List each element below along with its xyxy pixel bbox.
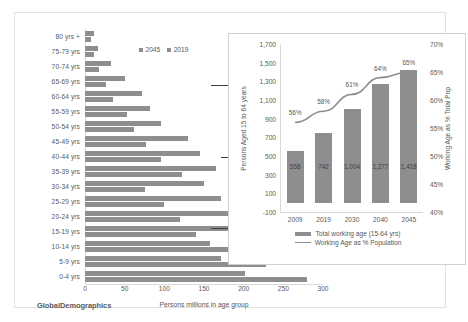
inset-bar — [372, 84, 389, 203]
inset-bar — [287, 151, 304, 203]
pyramid-row-label: 10-14 yrs — [52, 239, 80, 254]
pyramid-row-label: 40-44 yrs — [52, 149, 80, 164]
pyramid-row-label: 15-19 yrs — [52, 224, 80, 239]
pyramid-row-label: 30-34 yrs — [52, 179, 80, 194]
pyramid-bar-2045 — [85, 46, 98, 51]
pyramid-bar-2045 — [85, 76, 125, 81]
brand-watermark: GlobalDemographics — [37, 301, 111, 310]
inset-percent-label: 61% — [346, 81, 359, 88]
inset-percent-label: 64% — [374, 65, 387, 72]
pyramid-bar-2019 — [85, 52, 94, 57]
pyramid-row: 0-4 yrs — [85, 269, 323, 284]
pyramid-bar-2019 — [85, 142, 146, 147]
inset-left-y-tick: 300 — [265, 171, 276, 178]
pyramid-bar-2019 — [85, 217, 180, 222]
pyramid-row-label: 45-49 yrs — [52, 134, 80, 149]
pyramid-bar-2019 — [85, 277, 307, 282]
inset-left-y-tick: 500 — [265, 153, 276, 160]
pyramid-bar-2019 — [85, 37, 91, 42]
pyramid-bar-2019 — [85, 202, 164, 207]
pyramid-bar-2045 — [85, 31, 94, 36]
inset-right-y-tick: 50% — [430, 153, 443, 160]
inset-percent-label: 65% — [402, 59, 415, 66]
pyramid-x-tick: 0 — [83, 285, 87, 292]
legend-label: Total working age (15-64 yrs) — [315, 230, 400, 237]
inset-percent-label: 56% — [289, 109, 302, 116]
legend-bar-swatch-icon — [295, 232, 311, 236]
pyramid-bar-2045 — [85, 91, 142, 96]
legend-item-working-age-percent: Working Age as % Population — [295, 239, 402, 246]
inset-left-y-tick: 1,300 — [259, 78, 276, 85]
pyramid-bar-2045 — [85, 136, 188, 141]
pyramid-bar-2019 — [85, 157, 161, 162]
inset-right-y-tick: 45% — [430, 181, 443, 188]
inset-bar — [344, 109, 361, 203]
inset-bar-value-label: 558 — [290, 163, 301, 170]
pyramid-x-tick: 150 — [198, 285, 209, 292]
figure-root: 2045 2019 80 yrs +75-79 yrs70-74 yrs65-6… — [0, 0, 468, 322]
pyramid-bar-2045 — [85, 256, 221, 261]
inset-right-y-tick: 55% — [430, 125, 443, 132]
inset-left-y-tick: 1,500 — [259, 59, 276, 66]
pyramid-bar-2045 — [85, 181, 204, 186]
inset-left-axis-title: Persons Aged 15 to 64 years — [237, 44, 249, 212]
pyramid-bar-2019 — [85, 187, 145, 192]
pyramid-row-label: 5-9 yrs — [59, 254, 80, 269]
pyramid-bar-2019 — [85, 97, 113, 102]
pyramid-x-tick: 100 — [159, 285, 170, 292]
inset-left-y-tick: 700 — [265, 134, 276, 141]
pyramid-row-label: 50-54 yrs — [52, 119, 80, 134]
pyramid-bar-2019 — [85, 127, 134, 132]
inset-left-y-tick: 1,100 — [259, 97, 276, 104]
pyramid-row-label: 80 yrs + — [56, 29, 80, 44]
inset-bar-value-label: 1,004 — [344, 163, 360, 170]
inset-x-tick: 2019 — [316, 216, 331, 223]
pyramid-row-label: 20-24 yrs — [52, 209, 80, 224]
inset-bar-value-label: 1,418 — [401, 163, 417, 170]
inset-percent-label: 58% — [317, 98, 330, 105]
inset-plot-area: 1,7001,5001,3001,100900700500300100-1007… — [281, 44, 423, 212]
working-age-inset-panel: Persons Aged 15 to 64 years Working Age … — [228, 33, 466, 265]
pyramid-bar-2045 — [85, 61, 111, 66]
inset-right-y-tick: 70% — [430, 41, 443, 48]
inset-right-y-tick: 65% — [430, 69, 443, 76]
pyramid-bar-2045 — [85, 196, 221, 201]
pyramid-row-label: 75-79 yrs — [52, 44, 80, 59]
inset-bar-value-label: 742 — [318, 163, 329, 170]
inset-right-y-tick: 60% — [430, 97, 443, 104]
legend-item-total-working-age: Total working age (15-64 yrs) — [295, 230, 400, 237]
inset-left-y-tick: -100 — [263, 209, 276, 216]
pyramid-row-label: 60-64 yrs — [52, 89, 80, 104]
legend-line-swatch-icon — [295, 242, 311, 244]
pyramid-bar-2019 — [85, 82, 106, 87]
pyramid-bar-2019 — [85, 172, 182, 177]
pyramid-bar-2045 — [85, 271, 245, 276]
pyramid-row-label: 55-59 yrs — [52, 104, 80, 119]
pyramid-bar-2045 — [85, 121, 161, 126]
pyramid-row-label: 65-69 yrs — [52, 74, 80, 89]
pyramid-row-label: 0-4 yrs — [59, 269, 80, 284]
inset-x-tick: 2009 — [288, 216, 303, 223]
pyramid-x-tick: 300 — [317, 285, 328, 292]
pyramid-row-label: 35-39 yrs — [52, 164, 80, 179]
inset-x-tick: 2030 — [345, 216, 360, 223]
pyramid-bar-2045 — [85, 241, 210, 246]
inset-right-y-tick: 40% — [430, 209, 443, 216]
pyramid-x-axis-title: Persons millions in age group — [85, 301, 323, 308]
inset-left-y-tick: 100 — [265, 190, 276, 197]
pyramid-x-tick: 250 — [278, 285, 289, 292]
inset-bar-value-label: 1,277 — [372, 163, 388, 170]
inset-x-tick: 2040 — [373, 216, 388, 223]
inset-bottom-axis-line — [280, 212, 423, 213]
inset-legend: Total working age (15-64 yrs) Working Ag… — [229, 230, 467, 246]
pyramid-bar-2019 — [85, 232, 196, 237]
pyramid-row-label: 25-29 yrs — [52, 194, 80, 209]
inset-left-y-tick: 900 — [265, 115, 276, 122]
pyramid-row-label: 70-74 yrs — [52, 59, 80, 74]
inset-x-tick: 2045 — [401, 216, 416, 223]
inset-left-y-tick: 1,700 — [259, 41, 276, 48]
pyramid-x-tick: 200 — [238, 285, 249, 292]
pyramid-x-axis-ticks: 050100150200250300 — [85, 285, 323, 299]
legend-label: Working Age as % Population — [315, 239, 402, 246]
pyramid-bar-2019 — [85, 112, 127, 117]
